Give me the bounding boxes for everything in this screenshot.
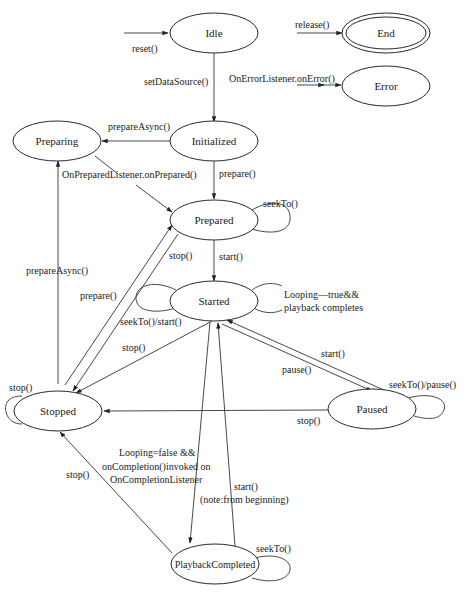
- state-error: Error: [342, 66, 430, 106]
- label-set-data-source: setDataSource(): [144, 76, 208, 88]
- state-label: Paused: [356, 403, 388, 415]
- mediaplayer-state-diagram: Idle End Error Initialized Preparing Pre…: [0, 0, 466, 598]
- state-label: Stopped: [40, 405, 77, 417]
- state-started: Started: [170, 281, 258, 321]
- label-paused-stop: stop(): [297, 415, 320, 427]
- label-completion-2: onCompletion()invoked on: [102, 461, 211, 473]
- label-prepare-init: prepare(): [219, 168, 256, 180]
- label-completed-start-1: start(): [234, 481, 258, 493]
- edge-prepared-stop: [73, 234, 178, 391]
- edge-started-pause: [222, 324, 372, 391]
- edge-started-completion: [190, 322, 210, 543]
- edge-paused-stop: [104, 410, 328, 411]
- label-stopped-self: stop(): [9, 382, 32, 394]
- edge-paused-start: [227, 320, 386, 391]
- state-label: End: [377, 27, 395, 39]
- state-label: Idle: [205, 27, 222, 39]
- state-stopped: Stopped: [14, 391, 102, 431]
- state-label: PlaybackCompleted: [175, 559, 256, 570]
- label-started-stop: stop(): [122, 342, 145, 354]
- edge-stopped-prepare: [65, 225, 172, 385]
- label-paused-start: start(): [321, 348, 345, 360]
- label-prepare-async: prepareAsync(): [108, 121, 170, 133]
- label-started-pause: pause(): [282, 364, 311, 376]
- label-looping-1: Looping—true&&: [284, 289, 359, 300]
- label-started-seek-start: seekTo()/start(): [120, 316, 182, 328]
- label-prepared-seek: seekTo(): [263, 198, 298, 210]
- label-completed-stop: stop(): [66, 469, 89, 481]
- edge-on-prepared-2: [136, 185, 172, 212]
- state-label: Prepared: [194, 214, 234, 226]
- state-preparing: Preparing: [13, 121, 101, 161]
- label-release: release(): [295, 19, 329, 31]
- label-prepare-stopped: prepare(): [80, 290, 117, 302]
- edge-started-stop: [76, 321, 212, 393]
- label-completed-seek: seekTo(): [256, 543, 291, 555]
- label-completion-1: Looping=false &&: [119, 447, 196, 458]
- label-prepare-async-stopped: prepareAsync(): [26, 265, 88, 277]
- state-prepared: Prepared: [170, 200, 258, 240]
- state-end: End: [342, 13, 430, 53]
- label-on-error: OnErrorListener.onError(): [229, 73, 335, 85]
- label-completed-start-2: (note:from beginning): [200, 494, 289, 506]
- state-label: Started: [198, 295, 230, 307]
- label-prepared-stop: stop(): [169, 250, 192, 262]
- state-idle: Idle: [170, 13, 258, 53]
- state-label: Preparing: [36, 135, 79, 147]
- state-playback-completed: PlaybackCompleted: [171, 544, 259, 584]
- label-paused-seek-pause: seekTo()/pause(): [389, 379, 456, 391]
- state-label: Error: [374, 80, 398, 92]
- state-paused: Paused: [328, 389, 416, 429]
- state-label: Initialized: [192, 135, 237, 147]
- label-completion-3: OnCompletionListener: [110, 474, 203, 485]
- edge-completed-start: [218, 323, 235, 546]
- label-on-prepared: OnPreparedListener.onPrepared(): [62, 169, 197, 181]
- label-prepared-start: start(): [219, 251, 243, 263]
- label-reset: reset(): [132, 43, 158, 55]
- label-looping-2: playback completes: [284, 302, 363, 313]
- state-initialized: Initialized: [170, 121, 258, 161]
